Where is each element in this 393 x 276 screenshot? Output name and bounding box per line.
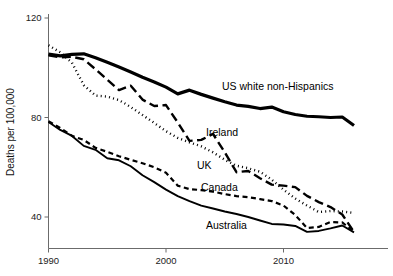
series-label-canada: Canada [201,181,238,193]
y-tick-label: 80 [31,112,42,123]
y-tick-label: 40 [31,211,42,222]
chart-container: 4080120199020002010Deaths per 100,000US … [0,0,393,276]
x-tick-label: 2000 [155,255,176,266]
series-line-canada [49,121,355,232]
x-tick-label: 2010 [273,255,294,266]
y-axis-title: Deaths per 100,000 [5,88,16,176]
series-label-ireland: Ireland [206,126,238,138]
x-tick-label: 1990 [38,255,59,266]
series-label-australia: Australia [206,219,247,231]
line-chart: 4080120199020002010Deaths per 100,000US … [0,0,393,276]
series-label-uk: UK [197,159,212,171]
y-tick-label: 120 [26,12,42,23]
series-label-us-white-non-hispanics: US white non-Hispanics [222,80,333,92]
